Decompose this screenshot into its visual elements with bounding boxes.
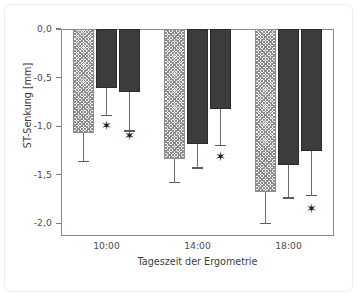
y-tick-mark	[56, 223, 61, 224]
error-bar-cap	[169, 182, 180, 183]
error-bar-line	[174, 159, 175, 182]
bar	[119, 29, 140, 92]
error-bar-line	[288, 165, 289, 198]
y-tick-label: 0,0	[37, 23, 52, 34]
error-bar-cap	[101, 115, 112, 116]
bar	[164, 29, 185, 159]
error-bar-line	[129, 92, 130, 131]
chart-figure: 0,0-0,5-1,0-1,5-2,0 ST-Senkung [mm] ✶✶✶✶…	[0, 0, 357, 296]
error-bar-line	[83, 133, 84, 161]
error-bar-cap	[260, 223, 271, 224]
x-tick-label: 14:00	[168, 240, 228, 251]
bar	[96, 29, 117, 88]
error-bar-cap	[192, 167, 203, 168]
significance-star: ✶	[215, 150, 226, 163]
y-tick-mark	[56, 126, 61, 127]
error-bar-line	[220, 109, 221, 146]
significance-star: ✶	[101, 119, 112, 132]
bar	[255, 29, 276, 192]
bar	[301, 29, 322, 151]
bar	[210, 29, 231, 109]
bar	[278, 29, 299, 165]
significance-star: ✶	[124, 128, 135, 141]
error-bar-line	[106, 88, 107, 115]
bar	[187, 29, 208, 144]
x-axis-title: Tageszeit der Ergometrie	[61, 256, 334, 267]
y-tick-label: -1,5	[34, 169, 52, 180]
error-bar-cap	[306, 195, 317, 196]
y-tick-label: -1,0	[34, 120, 52, 131]
error-bar-line	[311, 151, 312, 195]
x-tick-label: 10:00	[77, 240, 137, 251]
y-tick-mark	[56, 28, 61, 29]
error-bar-line	[265, 192, 266, 223]
y-axis-title: ST-Senkung [mm]	[22, 41, 33, 171]
x-tick-label: 18:00	[259, 240, 319, 251]
bar	[73, 29, 94, 133]
y-tick-mark	[56, 77, 61, 78]
error-bar-cap	[283, 197, 294, 198]
significance-star: ✶	[306, 201, 317, 214]
error-bar-line	[197, 144, 198, 168]
y-tick-label: -2,0	[34, 217, 52, 228]
y-tick-label: -0,5	[34, 72, 52, 83]
error-bar-cap	[215, 145, 226, 146]
error-bar-cap	[78, 161, 89, 162]
y-tick-mark	[56, 174, 61, 175]
